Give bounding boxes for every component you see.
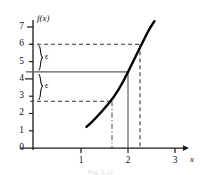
brace-upper xyxy=(39,46,44,71)
y-axis-label: f(x) xyxy=(37,13,50,23)
x-axis-label: x xyxy=(190,154,194,164)
y-tick-label-2: 2 xyxy=(13,108,24,118)
x-tick-label-2: 2 xyxy=(122,156,134,166)
y-tick-label-0: 0 xyxy=(13,143,24,153)
y-tick-label-1: 1 xyxy=(13,126,24,136)
y-tick-label-7: 7 xyxy=(13,22,24,32)
x-tick-label-3: 3 xyxy=(169,156,181,166)
x-axis xyxy=(20,145,189,153)
y-tick-label-3: 3 xyxy=(13,91,24,101)
figure-container: 7 6 5 4 3 2 1 0 1 2 3 f(x) x ϵ ϵ Fig. 2.… xyxy=(0,0,201,175)
figure-caption: Fig. 2.12 xyxy=(0,168,201,175)
y-axis xyxy=(25,20,33,150)
x-tick-label-1: 1 xyxy=(75,156,87,166)
epsilon-label-upper: ϵ xyxy=(45,53,48,61)
y-tick-label-5: 5 xyxy=(13,57,24,67)
graph-canvas xyxy=(0,0,201,175)
epsilon-label-lower: ϵ xyxy=(45,82,48,90)
brace-lower xyxy=(39,75,44,100)
y-tick-label-6: 6 xyxy=(13,39,24,49)
y-tick-label-4: 4 xyxy=(13,74,24,84)
function-curve xyxy=(87,21,155,127)
